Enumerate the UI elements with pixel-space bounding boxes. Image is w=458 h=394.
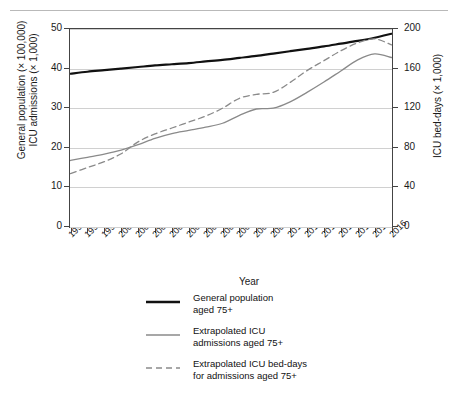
legend-label-line1: Extrapolated ICU bed-days [193,358,445,370]
y-axis-left-title-line1: General population (× 100,000) [16,18,28,162]
y-axis-right-tick-label: 120 [404,102,438,112]
legend-item[interactable]: Extrapolated ICU bed-daysfor admissions … [145,358,445,382]
legend-label-line2: for admissions aged 75+ [193,370,445,382]
y-axis-right-tickmark [393,68,398,69]
header-divider [10,10,448,11]
legend-label: Extrapolated ICUadmissions aged 75+ [193,325,445,348]
y-axis-right-tick-label: 40 [404,181,438,191]
y-axis-left-tick-label: 10 [30,181,62,191]
series-line-0 [71,34,392,74]
legend-item[interactable]: Extrapolated ICUadmissions aged 75+ [145,325,445,349]
legend-swatch-icon [145,365,181,369]
y-axis-right-tick-label: 80 [404,142,438,152]
legend-label: Extrapolated ICU bed-daysfor admissions … [193,358,445,381]
chart-legend: General populationaged 75+Extrapolated I… [145,292,445,391]
legend-item[interactable]: General populationaged 75+ [145,292,445,316]
gridline [70,227,392,228]
chart-figure: General population (× 100,000) ICU admis… [0,0,458,394]
y-axis-right-tickmark [393,107,398,108]
legend-label-line1: Extrapolated ICU [193,325,445,337]
legend-label: General populationaged 75+ [193,292,445,315]
legend-swatch-icon [145,299,181,303]
y-axis-right-tick-label: 160 [404,63,438,73]
y-axis-left-tick-label: 50 [30,23,62,33]
y-axis-left-tick-label: 20 [30,142,62,152]
top-caption [14,0,444,9]
y-axis-left-tick-label: 40 [30,63,62,73]
legend-label-line2: admissions aged 75+ [193,337,445,349]
y-axis-right-tickmark [393,147,398,148]
y-axis-left-title: General population (× 100,000) ICU admis… [16,18,40,162]
legend-label-line2: aged 75+ [193,304,445,316]
legend-label-line1: General population [193,292,445,304]
x-axis-title: Year [0,276,458,287]
y-axis-left-tick-label: 30 [30,102,62,112]
y-axis-right-tick-label: 200 [404,23,438,33]
series-lines [70,29,392,227]
y-axis-left-tick-label: 0 [30,221,62,231]
legend-swatch-icon [145,332,181,336]
y-axis-right-tickmark [393,28,398,29]
y-axis-left-title-line2: ICU admissions (× 1,000) [28,18,40,162]
y-axis-right-tick-label: 0 [404,221,438,231]
y-axis-right-tickmark [393,186,398,187]
plot-area [69,28,393,228]
